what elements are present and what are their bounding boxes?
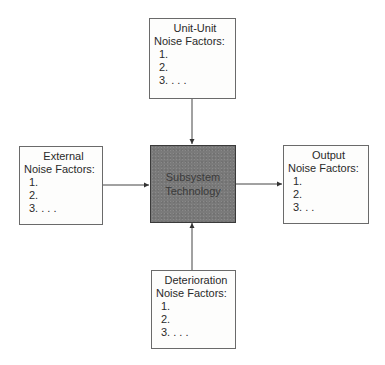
list-item: 3. . . . bbox=[29, 202, 98, 215]
center-label-line2: Technology bbox=[165, 184, 221, 198]
list-item: 2. bbox=[159, 61, 231, 74]
output-noise-box: Output Noise Factors: 1. 2. 3. . . bbox=[283, 145, 369, 224]
box-title: Output bbox=[293, 149, 364, 162]
box-title: Deterioration bbox=[161, 274, 231, 287]
list-item: 1. bbox=[29, 176, 98, 189]
deterioration-noise-box: Deterioration Noise Factors: 1. 2. 3. . … bbox=[151, 270, 236, 349]
list-item: 1. bbox=[159, 48, 231, 61]
list-item: 1. bbox=[161, 300, 231, 313]
list-item: 2. bbox=[161, 313, 231, 326]
box-title: Unit-Unit bbox=[159, 22, 231, 35]
list-item: 2. bbox=[293, 188, 364, 201]
box-subtitle: Noise Factors: bbox=[156, 287, 231, 300]
list-item: 3. . . . bbox=[161, 326, 231, 339]
box-subtitle: Noise Factors: bbox=[288, 162, 364, 175]
center-label-line1: Subsystem bbox=[166, 170, 220, 184]
list-item: 2. bbox=[29, 189, 98, 202]
list-item: 3. . . bbox=[293, 201, 364, 214]
box-subtitle: Noise Factors: bbox=[154, 35, 231, 48]
box-title: External bbox=[29, 150, 98, 163]
box-subtitle: Noise Factors: bbox=[24, 163, 98, 176]
subsystem-technology-box: Subsystem Technology bbox=[150, 145, 236, 223]
external-noise-box: External Noise Factors: 1. 2. 3. . . . bbox=[19, 146, 103, 225]
list-item: 1. bbox=[293, 175, 364, 188]
list-item: 3. . . . bbox=[159, 74, 231, 87]
unit-unit-noise-box: Unit-Unit Noise Factors: 1. 2. 3. . . . bbox=[149, 18, 236, 99]
